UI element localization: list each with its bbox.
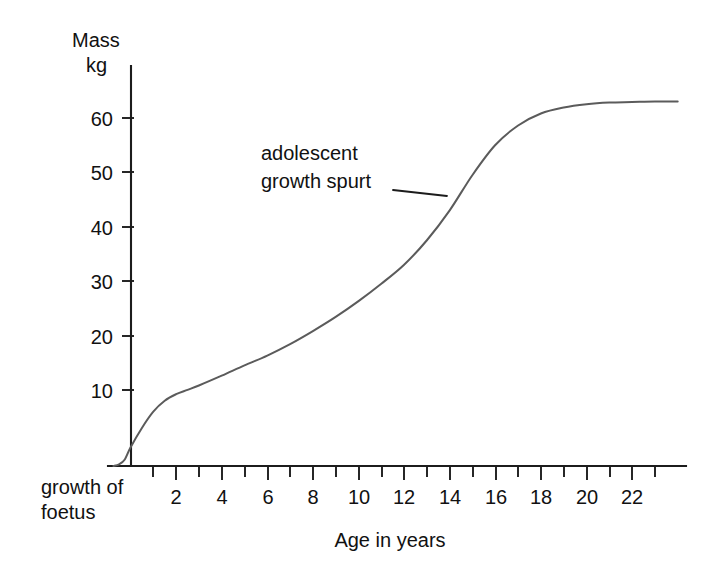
x-tick-label-12: 12 [393, 486, 415, 508]
x-tick-label-4: 4 [216, 486, 227, 508]
x-tick-label-14: 14 [439, 486, 461, 508]
y-axis-title-line2: kg [86, 54, 107, 76]
x-tick-label-16: 16 [485, 486, 507, 508]
annotation-leader-line [393, 190, 447, 196]
x-tick-marks [153, 466, 655, 480]
x-axis-title: Age in years [334, 529, 445, 551]
annotation-spurt-line1: adolescent [261, 142, 358, 164]
y-tick-label-50: 50 [91, 162, 113, 184]
x-tick-label-6: 6 [262, 486, 273, 508]
y-tick-label-10: 10 [91, 380, 113, 402]
growth-chart: Mass kg 60 50 40 30 20 10 [0, 0, 709, 576]
y-tick-label-30: 30 [91, 271, 113, 293]
foetus-note-line1: growth of [41, 476, 124, 498]
y-tick-label-20: 20 [91, 326, 113, 348]
foetus-note-line2: foetus [41, 501, 95, 523]
y-axis-title-line1: Mass [72, 29, 120, 51]
growth-curve-line [113, 101, 677, 466]
x-tick-label-22: 22 [621, 486, 643, 508]
x-tick-label-18: 18 [530, 486, 552, 508]
x-tick-label-10: 10 [348, 486, 370, 508]
x-tick-label-2: 2 [170, 486, 181, 508]
y-tick-label-40: 40 [91, 217, 113, 239]
y-tick-marks [122, 118, 134, 390]
y-tick-label-60: 60 [91, 108, 113, 130]
x-tick-label-8: 8 [307, 486, 318, 508]
x-tick-label-20: 20 [576, 486, 598, 508]
chart-canvas: Mass kg 60 50 40 30 20 10 [0, 0, 709, 576]
annotation-spurt-line2: growth spurt [261, 170, 371, 192]
